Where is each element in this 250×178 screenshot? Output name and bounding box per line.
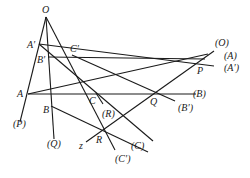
label-B-far: (B) [193,88,206,100]
label-Q-far: (Q) [47,138,62,150]
label-C1: C′ [70,43,80,54]
label-C-far: (C) [131,140,145,152]
label-P: P [196,65,203,76]
label-A-far: (A) [224,50,237,62]
label-P-far: (P) [13,118,26,130]
line-OB [46,17,54,139]
label-A: A [16,88,24,99]
label-A1: A′ [26,39,36,50]
label-O: O [42,4,49,15]
label-B: B [43,104,49,115]
label-R-far: (R) [102,108,115,120]
label-B1-far: (B′) [178,102,194,114]
label-Q: Q [150,96,158,107]
line-B1C1-P [48,57,205,59]
label-C: C [89,95,96,106]
label-B1: B′ [37,54,46,65]
label-C1-far: (C′) [115,153,131,165]
label-A1-far: (A′) [224,62,240,74]
label-R: R [95,134,102,145]
label-z: z [78,140,83,151]
line-C-R [96,93,103,104]
line-OC [46,17,115,150]
desargues-diagram: O A′ B′ C′ A B C P Q R (O) (A) (A′) (B) … [0,0,250,178]
label-O-far: (O) [215,37,230,49]
